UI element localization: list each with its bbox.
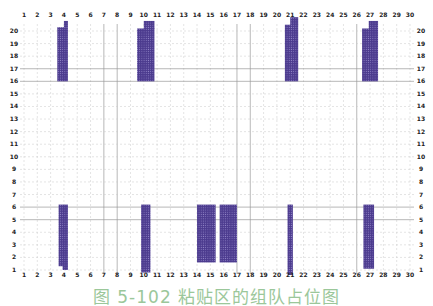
occupancy-block-step — [144, 21, 155, 29]
y-tick-left-19: 19 — [10, 40, 18, 47]
x-tick-top-2: 2 — [35, 11, 39, 18]
x-tick-bottom-24: 24 — [326, 271, 334, 278]
y-tick-right-3: 3 — [419, 241, 423, 248]
y-tick-left-11: 11 — [10, 140, 18, 147]
x-tick-bottom-12: 12 — [166, 271, 174, 278]
x-tick-bottom-13: 13 — [180, 271, 188, 278]
x-tick-bottom-1: 1 — [22, 271, 26, 278]
y-tick-left-18: 18 — [10, 52, 18, 59]
y-tick-right-13: 13 — [417, 115, 425, 122]
y-tick-right-6: 6 — [419, 203, 423, 210]
occupancy-block-7 — [197, 205, 216, 263]
y-tick-right-12: 12 — [417, 128, 425, 135]
x-tick-top-26: 26 — [353, 11, 361, 18]
occupancy-block-4 — [362, 28, 378, 81]
x-tick-bottom-26: 26 — [353, 271, 361, 278]
x-tick-bottom-28: 28 — [379, 271, 387, 278]
y-tick-right-11: 11 — [417, 140, 425, 147]
occupancy-block-8 — [220, 205, 237, 263]
x-tick-bottom-10: 10 — [140, 271, 148, 278]
x-tick-top-10: 10 — [140, 11, 148, 18]
y-tick-left-1: 1 — [12, 266, 16, 273]
x-tick-top-13: 13 — [180, 11, 188, 18]
x-tick-top-30: 30 — [406, 11, 414, 18]
occupancy-block-3 — [285, 25, 298, 82]
y-tick-left-7: 7 — [12, 191, 16, 198]
occupancy-block-2 — [137, 28, 154, 81]
y-tick-right-8: 8 — [419, 178, 423, 185]
x-tick-top-14: 14 — [193, 11, 201, 18]
x-tick-bottom-25: 25 — [339, 271, 347, 278]
x-tick-top-4: 4 — [62, 11, 66, 18]
x-tick-top-7: 7 — [102, 11, 106, 18]
occupancy-block-9 — [288, 205, 293, 275]
occupancy-block-step — [290, 17, 298, 25]
x-tick-top-28: 28 — [379, 11, 387, 18]
x-tick-bottom-19: 19 — [259, 271, 267, 278]
y-tick-right-10: 10 — [417, 153, 425, 160]
occupancy-block-1 — [57, 27, 68, 81]
x-tick-top-1: 1 — [22, 11, 26, 18]
x-tick-top-16: 16 — [219, 11, 227, 18]
y-tick-left-2: 2 — [12, 253, 16, 260]
x-tick-top-20: 20 — [273, 11, 281, 18]
y-tick-right-2: 2 — [419, 253, 423, 260]
x-tick-top-19: 19 — [259, 11, 267, 18]
x-tick-top-21: 21 — [286, 11, 294, 18]
y-tick-left-5: 5 — [12, 216, 16, 223]
y-tick-left-14: 14 — [10, 102, 18, 109]
x-tick-bottom-27: 27 — [366, 271, 374, 278]
x-tick-bottom-16: 16 — [219, 271, 227, 278]
x-tick-top-11: 11 — [153, 11, 161, 18]
occupancy-block-step — [63, 266, 68, 270]
x-tick-bottom-30: 30 — [406, 271, 414, 278]
x-tick-top-29: 29 — [393, 11, 401, 18]
x-tick-bottom-15: 15 — [206, 271, 214, 278]
y-tick-left-13: 13 — [10, 115, 18, 122]
y-tick-right-18: 18 — [417, 52, 425, 59]
y-tick-left-4: 4 — [12, 228, 16, 235]
y-tick-right-1: 1 — [419, 266, 423, 273]
x-tick-bottom-29: 29 — [393, 271, 401, 278]
y-tick-left-9: 9 — [12, 165, 16, 172]
x-tick-top-18: 18 — [246, 11, 254, 18]
x-tick-top-15: 15 — [206, 11, 214, 18]
x-tick-top-23: 23 — [313, 11, 321, 18]
x-tick-top-6: 6 — [88, 11, 92, 18]
x-tick-bottom-9: 9 — [128, 271, 132, 278]
occupancy-chart: 1122334455667788991010111112121313141415… — [0, 0, 433, 306]
x-tick-bottom-8: 8 — [115, 271, 119, 278]
y-tick-left-17: 17 — [10, 65, 18, 72]
occupancy-block-6 — [141, 205, 150, 273]
y-tick-left-6: 6 — [12, 203, 16, 210]
y-tick-left-16: 16 — [10, 77, 18, 84]
x-tick-bottom-23: 23 — [313, 271, 321, 278]
x-tick-top-24: 24 — [326, 11, 334, 18]
x-tick-top-17: 17 — [233, 11, 241, 18]
x-tick-top-27: 27 — [366, 11, 374, 18]
occupancy-block-5 — [59, 205, 68, 267]
y-tick-left-12: 12 — [10, 128, 18, 135]
occupancy-block-step — [369, 21, 378, 29]
x-tick-bottom-4: 4 — [62, 271, 66, 278]
x-tick-bottom-3: 3 — [49, 271, 53, 278]
y-tick-left-8: 8 — [12, 178, 16, 185]
y-tick-right-15: 15 — [417, 90, 425, 97]
x-tick-bottom-17: 17 — [233, 271, 241, 278]
y-tick-right-17: 17 — [417, 65, 425, 72]
y-tick-left-20: 20 — [10, 27, 18, 34]
x-tick-top-8: 8 — [115, 11, 119, 18]
x-tick-top-3: 3 — [49, 11, 53, 18]
occupancy-block-10 — [363, 205, 374, 269]
x-tick-top-22: 22 — [299, 11, 307, 18]
y-tick-right-14: 14 — [417, 102, 425, 109]
y-tick-right-4: 4 — [419, 228, 423, 235]
y-tick-right-9: 9 — [419, 165, 423, 172]
y-tick-right-20: 20 — [417, 27, 425, 34]
x-tick-bottom-22: 22 — [299, 271, 307, 278]
y-tick-right-19: 19 — [417, 40, 425, 47]
x-tick-bottom-6: 6 — [88, 271, 92, 278]
x-tick-top-25: 25 — [339, 11, 347, 18]
y-tick-right-5: 5 — [419, 216, 423, 223]
x-tick-top-5: 5 — [75, 11, 79, 18]
